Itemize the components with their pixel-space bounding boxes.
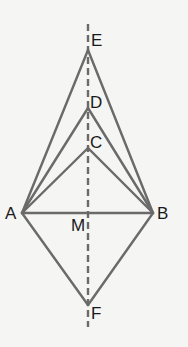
segment-BC — [88, 148, 153, 213]
geometry-diagram: E D C A B M F — [0, 0, 188, 347]
label-F: F — [91, 304, 101, 323]
segment-AC — [22, 148, 88, 213]
segment-BD — [88, 108, 153, 213]
diagram-svg: E D C A B M F — [0, 0, 188, 347]
label-B: B — [157, 204, 168, 223]
segment-BF — [88, 213, 153, 305]
label-M: M — [71, 216, 85, 235]
segment-AD — [22, 108, 88, 213]
segment-AE — [22, 50, 88, 213]
label-A: A — [5, 204, 17, 223]
label-D: D — [90, 93, 102, 112]
label-E: E — [91, 31, 102, 50]
segment-BE — [88, 50, 153, 213]
label-C: C — [90, 133, 102, 152]
